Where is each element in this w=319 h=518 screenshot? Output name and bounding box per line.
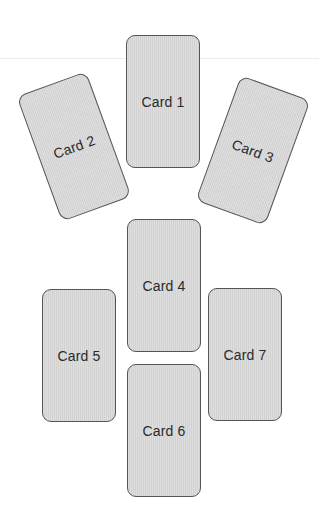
card-7-label: Card 7: [223, 347, 266, 363]
card-6[interactable]: Card 6: [127, 364, 201, 497]
card-6-label: Card 6: [142, 423, 185, 439]
card-2-label: Card 2: [51, 132, 97, 162]
card-5-label: Card 5: [57, 348, 100, 364]
card-3-label: Card 3: [230, 136, 276, 166]
card-4-label: Card 4: [142, 278, 185, 294]
card-3[interactable]: Card 3: [195, 75, 310, 225]
card-1[interactable]: Card 1: [126, 35, 200, 168]
card-7[interactable]: Card 7: [208, 288, 282, 421]
card-5[interactable]: Card 5: [42, 289, 116, 422]
card-2[interactable]: Card 2: [16, 71, 131, 221]
card-1-label: Card 1: [141, 94, 184, 110]
card-4[interactable]: Card 4: [127, 219, 201, 352]
